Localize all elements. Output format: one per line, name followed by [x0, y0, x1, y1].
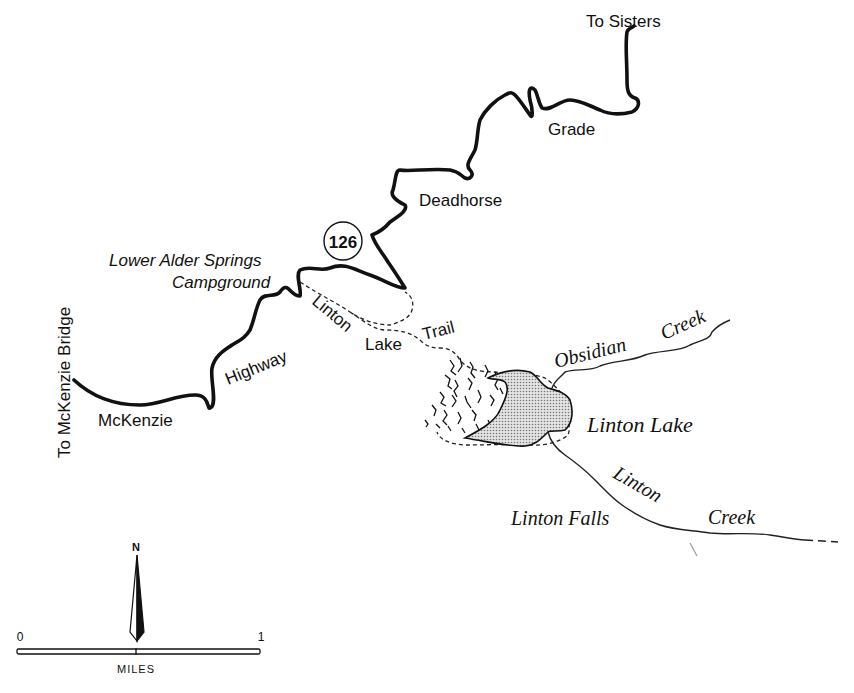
label-mckenzie: McKenzie	[98, 411, 173, 430]
label-campground-line2: Campground	[172, 273, 271, 292]
label-to-sisters: To Sisters	[586, 12, 661, 31]
label-obsidian-creek: Creek	[657, 304, 710, 344]
scale-start: 0	[17, 630, 24, 644]
shield-number: 126	[329, 233, 357, 252]
label-campground-line1: Lower Alder Springs	[109, 251, 262, 270]
label-grade: Grade	[548, 120, 595, 139]
label-trail-lake: Lake	[365, 335, 402, 354]
label-linton-falls: Linton Falls	[510, 507, 610, 529]
linton-falls-mark	[690, 543, 697, 556]
label-obsidian: Obsidian	[552, 333, 628, 372]
linton-creek-dashed	[805, 540, 838, 542]
label-trail-trail: Trail	[420, 318, 456, 344]
highway-126-shield: 126	[324, 222, 362, 260]
label-highway: Highway	[222, 346, 290, 388]
north-arrow: N	[130, 541, 144, 641]
label-linton-creek-1: Linton	[609, 461, 666, 507]
label-to-mckenzie-bridge: To McKenzie Bridge	[55, 307, 74, 458]
scale-end: 1	[258, 630, 265, 644]
label-linton-lake: Linton Lake	[586, 412, 693, 437]
scale-unit: MILES	[117, 663, 155, 675]
map-canvas: 126 To Sisters Grade Deadhorse Lower Ald…	[0, 0, 854, 693]
trail-map: 126 To Sisters Grade Deadhorse Lower Ald…	[0, 0, 854, 693]
label-deadhorse: Deadhorse	[419, 191, 502, 210]
label-linton-creek-2: Creek	[708, 506, 756, 528]
label-trail-linton: Linton	[308, 292, 356, 336]
north-label: N	[132, 541, 140, 553]
